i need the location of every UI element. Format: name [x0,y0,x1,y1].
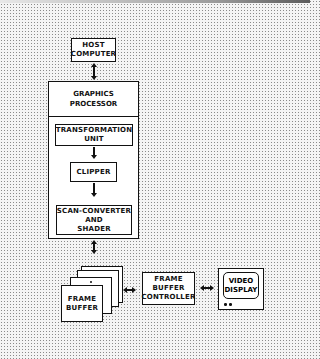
video-display-line-1: VIDEO [229,277,254,286]
fbc-line-3: CONTROLLER [141,293,195,302]
monitor-knob-icon [229,303,232,306]
transformation-unit-box: TRANSFORMATION UNIT [55,124,133,146]
scan-converter-line-3: SHADER [77,225,111,234]
scan-converter-shader-box: SCAN-CONVERTER AND SHADER [56,205,132,235]
video-display-line-2: DISPLAY [225,286,258,295]
graphics-processor-line-1: GRAPHICS [73,89,113,99]
host-computer-line-2: COMPUTER [71,50,116,59]
frame-buffer-box: FRAME BUFFER [61,285,103,322]
stack-dot [90,281,92,283]
clipper-box: CLIPPER [70,162,117,182]
fbc-line-1: FRAME [154,275,182,284]
monitor-knob-icon [224,303,227,306]
frame-buffer-controller-box: FRAME BUFFER CONTROLLER [142,272,195,305]
scan-converter-line-1: SCAN-CONVERTER [57,207,131,216]
host-computer-line-1: HOST [82,41,104,50]
frame-buffer-line-2: BUFFER [66,304,98,313]
graphics-processor-header: GRAPHICS PROCESSOR [49,82,138,117]
top-edge-shadow [0,0,310,3]
video-display-screen: VIDEO DISPLAY [223,272,259,299]
scan-converter-line-2: AND [85,216,103,225]
clipper-label: CLIPPER [76,168,110,177]
transformation-unit-line-2: UNIT [84,135,104,144]
transformation-unit-line-1: TRANSFORMATION [56,126,132,135]
fbc-line-2: BUFFER [153,284,185,293]
frame-buffer-line-1: FRAME [68,295,96,304]
host-computer-box: HOST COMPUTER [71,38,116,62]
graphics-processor-line-2: PROCESSOR [70,99,118,109]
